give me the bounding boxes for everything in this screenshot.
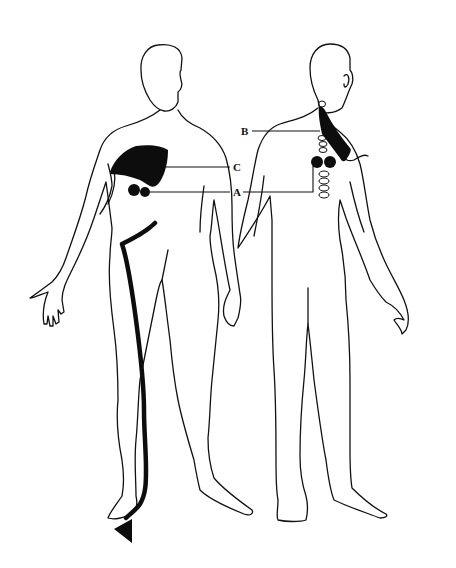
label-b: B bbox=[241, 125, 249, 137]
label-a: A bbox=[233, 186, 241, 198]
vertebra bbox=[319, 142, 327, 147]
vertebra bbox=[319, 192, 329, 198]
vertebra bbox=[319, 178, 329, 184]
front-head-outline bbox=[141, 45, 182, 112]
label-c: C bbox=[233, 161, 241, 173]
region-a-front-circle-right bbox=[140, 187, 150, 197]
back-left-arm-inner bbox=[350, 182, 364, 232]
back-head-outline bbox=[310, 44, 353, 113]
front-left-flank bbox=[200, 186, 204, 232]
back-ear bbox=[344, 75, 349, 87]
region-b-upper-back-shading bbox=[319, 107, 351, 162]
region-a-back-circle-right bbox=[324, 156, 336, 168]
back-body-outline bbox=[238, 108, 408, 522]
vertebra bbox=[319, 148, 327, 153]
referred-pain-pathway bbox=[122, 223, 155, 518]
front-crotch bbox=[162, 250, 168, 280]
vertebra bbox=[319, 185, 329, 191]
front-figure bbox=[30, 45, 253, 519]
anatomy-diagram: C A B bbox=[0, 0, 456, 568]
pathway-arrowhead-icon bbox=[114, 519, 132, 543]
vertebra bbox=[319, 171, 329, 177]
region-a-front-circle-left bbox=[128, 184, 140, 196]
vertebra bbox=[319, 101, 326, 107]
region-c-chest-shading bbox=[110, 145, 168, 187]
back-right-arm-inner bbox=[254, 176, 264, 236]
